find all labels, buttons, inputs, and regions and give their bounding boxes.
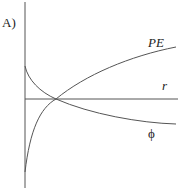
phi-label: ϕ — [148, 127, 155, 140]
pe-curve — [25, 47, 176, 172]
panel-label: A) — [2, 16, 16, 29]
pe-label: PE — [148, 36, 164, 49]
r-label: r — [162, 79, 167, 92]
diagram-canvas — [0, 0, 184, 193]
phi-curve — [25, 66, 176, 124]
